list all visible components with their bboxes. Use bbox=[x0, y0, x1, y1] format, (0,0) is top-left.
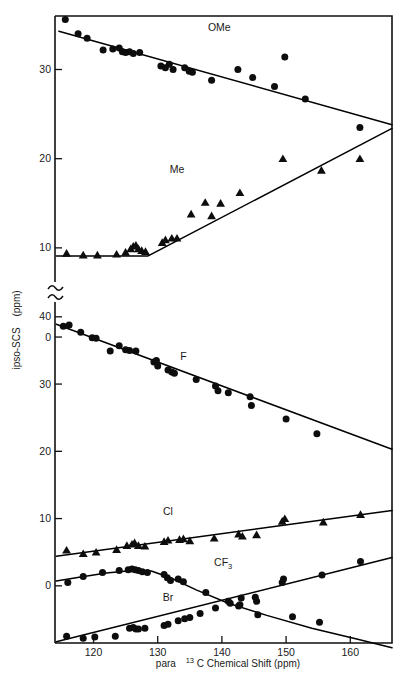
data-point bbox=[116, 567, 123, 574]
data-point bbox=[75, 30, 82, 37]
data-point bbox=[319, 572, 326, 579]
series-label-Cl: Cl bbox=[163, 505, 173, 517]
y-axis-title-main: ipso-SCS bbox=[11, 327, 22, 370]
data-point bbox=[63, 633, 70, 640]
data-point bbox=[283, 416, 290, 423]
y-tick-label: 0 bbox=[45, 579, 51, 591]
data-point bbox=[171, 370, 178, 377]
data-point bbox=[254, 611, 261, 618]
series-label-Br: Br bbox=[163, 591, 174, 603]
data-point bbox=[227, 600, 234, 607]
data-point bbox=[216, 199, 225, 207]
data-point bbox=[112, 250, 121, 258]
svg-text:ipso-SCS (ppm): ipso-SCS (ppm) bbox=[11, 290, 22, 369]
data-point bbox=[62, 546, 71, 554]
data-point bbox=[170, 66, 177, 73]
data-point bbox=[207, 212, 216, 220]
data-point bbox=[91, 633, 98, 640]
data-point bbox=[112, 633, 119, 640]
data-point bbox=[234, 66, 241, 73]
fit-line-OMe bbox=[59, 31, 392, 125]
y-tick-label: 30 bbox=[39, 63, 51, 75]
y-axis-title-unit: (ppm) bbox=[11, 290, 22, 316]
data-point bbox=[202, 589, 209, 596]
data-point bbox=[187, 210, 196, 218]
y-tick-label: 0 bbox=[45, 331, 51, 343]
series-label-CF3: CF3 bbox=[214, 556, 232, 571]
fit-line-Br bbox=[56, 558, 392, 642]
data-point bbox=[130, 50, 137, 57]
x-tick-labels: 120130140150160 bbox=[85, 646, 359, 658]
y-tick-label: 10 bbox=[39, 512, 51, 524]
y-tick-label: 20 bbox=[39, 152, 51, 164]
data-point bbox=[93, 335, 100, 342]
x-tick-label: 130 bbox=[149, 646, 167, 658]
data-point bbox=[279, 155, 288, 163]
axis-break-icon bbox=[48, 286, 63, 300]
data-point bbox=[281, 54, 288, 61]
data-point bbox=[167, 577, 174, 584]
scatter-plot-svg: 3020100403020100 120130140150160 OMeMeCF… bbox=[0, 0, 416, 684]
data-point bbox=[93, 251, 102, 259]
data-point bbox=[186, 614, 193, 621]
data-point bbox=[212, 605, 219, 612]
data-point bbox=[60, 323, 67, 330]
data-points bbox=[60, 16, 365, 642]
data-point bbox=[208, 77, 215, 84]
data-point bbox=[100, 46, 107, 53]
series-label-Me: Me bbox=[170, 163, 185, 175]
x-tick-label: 120 bbox=[85, 646, 103, 658]
data-point bbox=[356, 124, 363, 131]
y-tick-label: 20 bbox=[39, 445, 51, 457]
data-point bbox=[175, 617, 182, 624]
x-axis-title-superscript: 13 bbox=[186, 656, 194, 665]
fit-line-Me bbox=[56, 128, 392, 256]
y-tick-labels: 3020100403020100 bbox=[39, 63, 51, 591]
data-point bbox=[132, 348, 139, 355]
data-point bbox=[289, 613, 296, 620]
y-tick-label: 10 bbox=[39, 241, 51, 253]
break-squiggle-bottom bbox=[48, 295, 63, 300]
series-label-OMe: OMe bbox=[208, 21, 231, 33]
data-point bbox=[252, 531, 261, 539]
data-point bbox=[271, 83, 278, 90]
x-axis-title-post: C Chemical Shift (ppm) bbox=[197, 658, 300, 669]
data-point bbox=[109, 46, 116, 53]
data-point bbox=[80, 635, 87, 642]
data-point bbox=[80, 573, 87, 580]
data-point bbox=[252, 594, 259, 601]
data-point bbox=[357, 558, 364, 565]
y-tick-label: 30 bbox=[39, 378, 51, 390]
data-point bbox=[238, 594, 245, 601]
data-point bbox=[64, 579, 71, 586]
data-point bbox=[225, 389, 232, 396]
chart-figure: 3020100403020100 120130140150160 OMeMeCF… bbox=[0, 0, 416, 684]
x-tick-label: 150 bbox=[277, 646, 295, 658]
data-point bbox=[79, 251, 88, 259]
data-point bbox=[116, 342, 123, 349]
data-point bbox=[215, 387, 222, 394]
series-labels: OMeMeCF3FClBr bbox=[163, 21, 233, 603]
data-point bbox=[77, 329, 84, 336]
data-point bbox=[84, 35, 91, 42]
data-point bbox=[141, 625, 148, 632]
data-point bbox=[302, 95, 309, 102]
data-point bbox=[144, 569, 151, 576]
data-point bbox=[236, 188, 245, 196]
data-point bbox=[248, 402, 255, 409]
axis-ticks bbox=[55, 70, 350, 643]
fit-line-Cl bbox=[56, 511, 392, 557]
data-point bbox=[356, 155, 365, 163]
y-axis-title: ipso-SCS (ppm) bbox=[11, 290, 22, 369]
data-point bbox=[235, 603, 242, 610]
series-label-F: F bbox=[180, 350, 186, 362]
fit-line-F bbox=[56, 324, 392, 449]
data-point bbox=[66, 321, 73, 328]
data-point bbox=[62, 249, 71, 257]
data-point bbox=[62, 16, 69, 23]
data-point bbox=[193, 376, 200, 383]
break-squiggle-top bbox=[48, 286, 63, 291]
data-point bbox=[247, 393, 254, 400]
data-point bbox=[165, 621, 172, 628]
data-point bbox=[197, 610, 204, 617]
